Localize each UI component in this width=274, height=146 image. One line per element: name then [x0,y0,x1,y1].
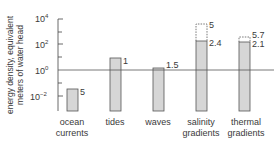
svg-text:salinity: salinity [187,117,215,127]
svg-text:102: 102 [35,39,49,50]
svg-text:100: 100 [35,65,49,76]
bar-ocean-currents [67,89,78,111]
svg-text:ocean: ocean [60,117,85,127]
y-ticks [58,19,63,96]
svg-text:10−2: 10−2 [30,91,48,102]
svg-text:energy density, equivalent: energy density, equivalent [5,15,15,114]
bars [67,41,250,111]
svg-text:waves: waves [144,117,171,127]
svg-text:5: 5 [80,87,85,97]
dashed-ranges [196,24,250,42]
svg-text:thermal: thermal [231,117,261,127]
bar-annotations: 5 1 1.5 5 2.4 5.7 2.1 [80,20,265,97]
svg-text:2.4: 2.4 [209,38,222,48]
svg-text:gradients: gradients [227,128,265,138]
svg-text:tides: tides [105,117,125,127]
range-salinity [196,24,207,41]
bar-tides [110,58,121,111]
y-tick-labels: 104 102 100 10−2 [30,13,49,102]
svg-text:104: 104 [35,13,49,24]
bar-thermal-gradients [239,42,250,111]
range-thermal [239,37,250,42]
svg-text:currents: currents [56,128,89,138]
svg-text:gradients: gradients [182,128,220,138]
bar-salinity-gradients [196,41,207,111]
svg-text:1.5: 1.5 [166,60,179,70]
y-axis-label: energy density, equivalent meters of wat… [5,15,25,114]
chart: energy density, equivalent meters of wat… [0,0,274,146]
svg-text:5: 5 [209,20,214,30]
svg-text:meters of water head: meters of water head [15,25,25,105]
svg-text:2.1: 2.1 [252,39,265,49]
svg-text:1: 1 [123,56,128,66]
category-labels: ocean currents tides waves salinity grad… [56,117,265,138]
bar-waves [153,68,164,111]
